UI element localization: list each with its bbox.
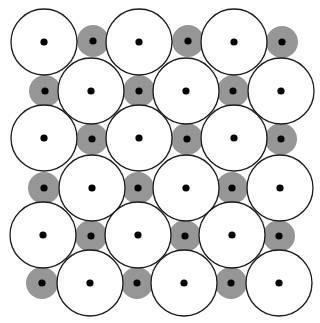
center-dot-34 (227, 279, 234, 286)
center-dot-24 (39, 231, 46, 238)
center-dot-32 (133, 279, 140, 286)
lattice-canvas (0, 0, 320, 323)
center-dot-4 (230, 38, 237, 45)
center-dot-5 (278, 38, 285, 45)
center-dot-22 (228, 184, 235, 191)
center-dot-13 (88, 135, 95, 142)
center-dot-20 (134, 184, 141, 191)
center-dot-35 (275, 279, 282, 286)
center-dot-16 (230, 134, 237, 141)
center-dot-3 (184, 37, 191, 44)
center-dot-17 (277, 135, 284, 142)
center-dot-8 (135, 87, 142, 94)
center-dot-26 (134, 231, 141, 238)
center-dot-7 (87, 87, 94, 94)
center-dot-0 (40, 38, 47, 45)
center-dot-10 (229, 87, 236, 94)
center-dot-12 (40, 134, 47, 141)
center-dot-15 (183, 135, 190, 142)
center-dot-30 (38, 279, 45, 286)
center-dot-18 (40, 184, 47, 191)
center-dot-11 (277, 87, 284, 94)
center-dot-27 (181, 232, 188, 239)
center-dot-21 (182, 184, 189, 191)
center-dot-25 (87, 232, 94, 239)
center-dot-2 (135, 38, 142, 45)
center-dot-19 (88, 184, 95, 191)
center-dot-33 (180, 279, 187, 286)
center-dot-28 (228, 231, 235, 238)
center-dot-14 (135, 134, 142, 141)
center-dot-9 (182, 87, 189, 94)
center-dot-1 (89, 37, 96, 44)
lattice-figure (0, 0, 320, 323)
center-dot-31 (86, 279, 93, 286)
center-dot-6 (41, 87, 48, 94)
center-dot-29 (275, 232, 282, 239)
center-dot-23 (276, 184, 283, 191)
